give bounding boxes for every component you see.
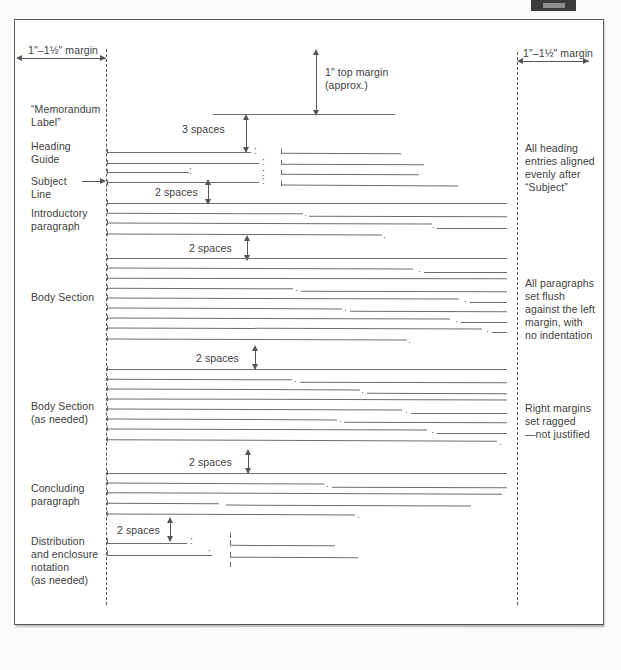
body-line-dot-6 bbox=[345, 310, 346, 311]
note-ragged-right-3: —not justified bbox=[525, 428, 590, 441]
callout-2-spaces-subject-label: 2 spaces bbox=[155, 186, 198, 199]
body2-line-1 bbox=[107, 369, 507, 370]
concl-line-dot-5 bbox=[358, 517, 359, 518]
body2-line-5b bbox=[411, 413, 507, 414]
top-margin-arrow-down bbox=[313, 110, 319, 116]
top-margin-label-line2: (approx.) bbox=[325, 79, 368, 92]
right-margin-dimension-line bbox=[523, 61, 589, 62]
note-flush-left-5: no indentation bbox=[525, 329, 592, 342]
callout-3-spaces-label: 3 spaces bbox=[182, 123, 225, 136]
right-margin-label: 1"–1½" margin bbox=[523, 47, 593, 60]
body-line-2b bbox=[424, 272, 507, 273]
heading-row-left-2 bbox=[107, 163, 259, 164]
label-body-as-needed-1: Body Section bbox=[31, 400, 94, 413]
body2-line-dot-6 bbox=[340, 421, 341, 422]
label-body-section: Body Section bbox=[31, 291, 94, 304]
memorandum-label-rule bbox=[213, 114, 395, 115]
callout-2-spaces-concluding-label: 2 spaces bbox=[189, 456, 232, 469]
label-introductory-1: Introductory bbox=[31, 207, 88, 220]
left-margin-dimension-line bbox=[22, 58, 106, 59]
left-margin-arrow-start bbox=[16, 55, 22, 61]
heading-row-colon-2: : bbox=[262, 159, 265, 165]
callout-2-spaces-body-label: 2 spaces bbox=[196, 352, 239, 365]
note-heading-alignment-4: “Subject” bbox=[525, 181, 568, 194]
callout-2-spaces-body-arrow-up bbox=[252, 345, 258, 351]
callout-2-spaces-distribution-arrow-up bbox=[167, 517, 173, 523]
heading-row-left-1 bbox=[107, 152, 251, 153]
note-flush-left-1: All paragraphs bbox=[525, 277, 594, 290]
body-line-dot-8 bbox=[487, 331, 488, 332]
body-line-5b bbox=[470, 302, 507, 303]
dist-row-right-tick-1 bbox=[230, 533, 231, 538]
label-memorandum-label-2: Label” bbox=[31, 116, 61, 129]
intro-line-dot-2 bbox=[305, 215, 306, 216]
body-line-dot-9 bbox=[409, 342, 410, 343]
note-heading-alignment-2: entries aligned bbox=[525, 155, 595, 168]
label-distribution-1: Distribution bbox=[31, 535, 85, 548]
concl-line-dot-2 bbox=[327, 486, 328, 487]
top-margin-dimension-line bbox=[316, 54, 317, 114]
label-distribution-2: and enclosure bbox=[31, 548, 98, 561]
heading-row-colon-1: : bbox=[254, 148, 257, 154]
label-introductory-2: paragraph bbox=[31, 220, 80, 233]
intro-line-dot-3 bbox=[433, 227, 434, 228]
body-line-dot-7 bbox=[456, 321, 457, 322]
note-flush-left-3: against the left bbox=[525, 303, 595, 316]
dist-row-right-tick-2b bbox=[230, 562, 231, 567]
callout-2-spaces-distribution-label: 2 spaces bbox=[117, 524, 160, 537]
body2-line-7b bbox=[437, 433, 507, 434]
label-distribution-4: (as needed) bbox=[31, 574, 88, 587]
subject-pointer-line bbox=[82, 181, 102, 182]
callout-2-spaces-subject-arrow-down bbox=[205, 199, 211, 205]
figure-page: 1"–1½" margin 1"–1½" margin 1" top margi… bbox=[0, 0, 621, 670]
body2-line-dot-3 bbox=[362, 392, 363, 393]
dist-row-left-2 bbox=[107, 555, 212, 556]
note-flush-left-2: set flush bbox=[525, 290, 565, 303]
left-margin-label: 1"–1½" margin bbox=[28, 44, 98, 57]
body2-line-dot-8 bbox=[500, 444, 501, 445]
diagram-frame-shadow bbox=[16, 624, 604, 627]
label-memorandum-label-1: “Memorandum bbox=[31, 103, 100, 116]
label-concluding-1: Concluding bbox=[31, 482, 85, 495]
label-heading-guide-2: Guide bbox=[31, 153, 60, 166]
body-line-dot-2 bbox=[419, 271, 420, 272]
label-concluding-2: paragraph bbox=[31, 495, 80, 508]
heading-row-left-4 bbox=[107, 182, 259, 183]
body-line-dot-5 bbox=[465, 301, 466, 302]
top-margin-label-line1: 1" top margin bbox=[325, 66, 388, 79]
label-subject-line-1: Subject bbox=[31, 175, 67, 188]
diagram-frame bbox=[14, 19, 604, 625]
callout-2-spaces-distribution-arrow-down bbox=[167, 536, 173, 542]
right-margin-guide bbox=[517, 52, 518, 605]
note-ragged-right-2: set ragged bbox=[525, 415, 576, 428]
heading-row-colon-3a: : bbox=[189, 168, 192, 174]
body2-line-dot-7 bbox=[432, 432, 433, 433]
label-subject-line-2: Line bbox=[31, 188, 51, 201]
callout-2-spaces-intro-label: 2 spaces bbox=[189, 242, 232, 255]
left-margin-arrow-end bbox=[100, 55, 106, 61]
concl-line-1 bbox=[107, 473, 507, 474]
note-heading-alignment-1: All heading bbox=[525, 142, 578, 155]
intro-line-dot-4 bbox=[384, 237, 385, 238]
callout-2-spaces-concluding-arrow-up bbox=[245, 449, 251, 455]
note-ragged-right-1: Right margins bbox=[525, 402, 591, 415]
body-line-7b bbox=[461, 322, 507, 323]
callout-2-spaces-intro-arrow-up bbox=[244, 235, 250, 241]
note-heading-alignment-3: evenly after bbox=[525, 168, 580, 181]
note-flush-left-4: margin, with bbox=[525, 316, 583, 329]
body-line-dot-4 bbox=[296, 290, 297, 291]
dist-row-colon-2: : bbox=[208, 550, 211, 556]
intro-line-3b bbox=[437, 228, 507, 229]
heading-row-colon-4: : bbox=[262, 178, 265, 184]
body-line-1 bbox=[107, 258, 507, 259]
body-line-8b bbox=[492, 332, 507, 333]
body2-line-dot-5 bbox=[406, 412, 407, 413]
body2-line-dot-2 bbox=[295, 381, 296, 382]
dist-row-colon-1: : bbox=[190, 538, 193, 544]
intro-line-1 bbox=[107, 203, 507, 204]
dist-row-left-1 bbox=[107, 543, 187, 544]
subject-pointer-arrow bbox=[100, 178, 106, 184]
page-header-tab-highlight bbox=[543, 3, 565, 8]
heading-row-left-3 bbox=[107, 172, 189, 173]
callout-2-spaces-subject-arrow-up bbox=[205, 179, 211, 185]
